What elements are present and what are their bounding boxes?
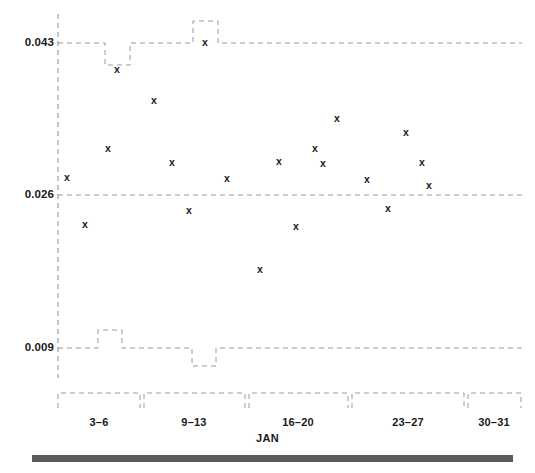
x-group-label-9-13: 9–13 <box>154 417 234 428</box>
data-point-marker: x <box>276 155 282 167</box>
data-point-marker: x <box>312 142 318 154</box>
data-point-marker: x <box>169 156 175 168</box>
y-tick-label-0.026: 0.026 <box>0 189 54 201</box>
data-markers: xxxxxxxxxxxxxxxxxxxx <box>64 36 432 275</box>
x-group-bracket-3-6 <box>58 393 140 408</box>
data-point-marker: x <box>186 204 192 216</box>
gridline-0.009 <box>58 330 522 366</box>
data-point-marker: x <box>320 157 326 169</box>
x-group-bracket-30-31 <box>468 393 521 408</box>
data-point-marker: x <box>385 202 391 214</box>
bottom-rule-bar <box>32 455 513 462</box>
data-point-marker: x <box>403 126 409 138</box>
data-point-marker: x <box>426 179 432 191</box>
x-axis-group-brackets <box>58 393 521 408</box>
y-tick-label-0.043: 0.043 <box>0 37 54 49</box>
scatter-chart-figure: xxxxxxxxxxxxxxxxxxxx 0.0430.0260.009 3–6… <box>0 0 535 473</box>
x-group-label-30-31: 30–31 <box>454 417 534 428</box>
data-point-marker: x <box>202 36 208 48</box>
data-point-marker: x <box>419 156 425 168</box>
x-group-bracket-16-20 <box>249 393 348 408</box>
data-point-marker: x <box>257 263 263 275</box>
gridlines <box>58 21 522 366</box>
data-point-marker: x <box>82 218 88 230</box>
data-point-marker: x <box>364 173 370 185</box>
data-point-marker: x <box>293 220 299 232</box>
data-point-marker: x <box>105 142 111 154</box>
data-point-marker: x <box>224 172 230 184</box>
plot-area: xxxxxxxxxxxxxxxxxxxx <box>0 0 535 473</box>
x-group-label-3-6: 3–6 <box>59 417 139 428</box>
x-group-label-16-20: 16–20 <box>258 417 338 428</box>
plot-canvas: xxxxxxxxxxxxxxxxxxxx <box>0 0 535 473</box>
data-point-marker: x <box>334 112 340 124</box>
data-point-marker: x <box>151 94 157 106</box>
data-point-marker: x <box>64 171 70 183</box>
x-axis-title: JAN <box>0 433 535 444</box>
x-group-bracket-23-27 <box>352 393 464 408</box>
x-group-bracket-9-13 <box>144 393 245 408</box>
y-tick-label-0.009: 0.009 <box>0 342 54 354</box>
gridline-0.043 <box>58 21 522 65</box>
data-point-marker: x <box>114 63 120 75</box>
x-group-label-23-27: 23–27 <box>368 417 448 428</box>
